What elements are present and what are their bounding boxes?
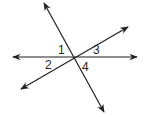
intersecting-lines [0, 0, 147, 117]
angle-label-2: 2 [45, 59, 52, 71]
angle-label-1: 1 [58, 44, 65, 56]
diagonal-line [21, 27, 128, 89]
angle-label-4: 4 [82, 61, 89, 73]
angle-label-3: 3 [93, 44, 100, 56]
angle-diagram: 1 3 2 4 [0, 0, 147, 117]
